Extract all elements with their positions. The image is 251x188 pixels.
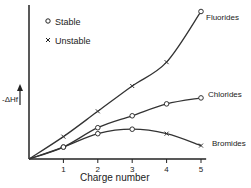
circle-marker-icon [130,127,135,132]
y-arrow-head-icon [17,84,23,91]
cross-marker-icon [61,135,65,139]
cross-marker-icon [130,84,134,88]
circle-marker-icon [96,131,101,136]
x-axis-label: Charge number [80,172,149,183]
y-axis-label: -ΔHf [2,95,18,104]
series-line-bromides [29,129,201,159]
x-tick-label: 1 [61,165,66,174]
legend-unstable-label: Unstable [55,36,91,46]
series-label-bromides: Bromides [212,139,246,148]
legend-cross-icon [46,38,50,42]
cross-marker-icon [165,60,169,64]
legend-stable-label: Stable [55,17,81,27]
cross-marker-icon [96,109,100,113]
circle-marker-icon [96,125,101,130]
x-tick-label: 4 [164,165,169,174]
series-label-fluorides: Fluorides [206,13,239,22]
circle-marker-icon [199,9,204,14]
series-label-chlorides: Chlorides [208,90,242,99]
circle-marker-icon [61,145,66,150]
x-tick-label: 5 [199,165,204,174]
legend-circle-icon [46,19,50,23]
circle-marker-icon [164,102,169,107]
circle-marker-icon [199,96,204,101]
series-line-fluorides [29,11,201,159]
circle-marker-icon [130,113,135,118]
